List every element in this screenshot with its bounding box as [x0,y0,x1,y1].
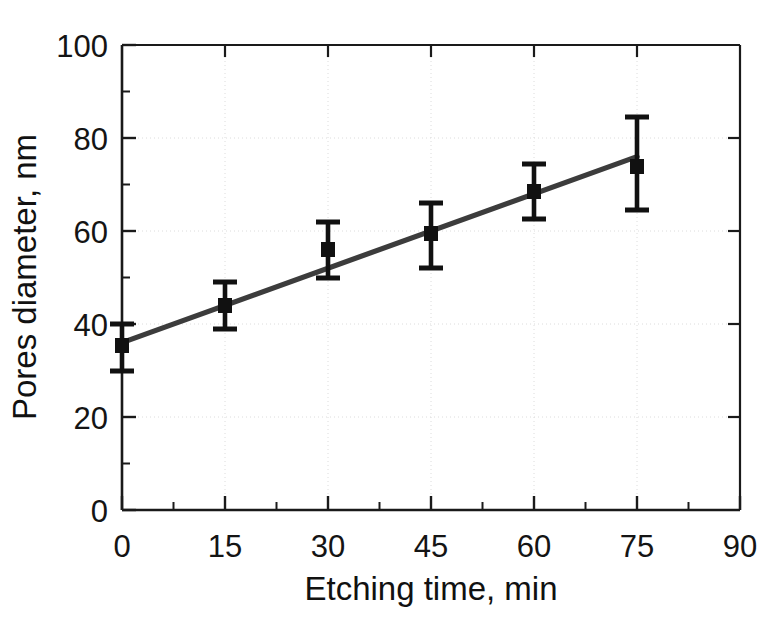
y-tick-label-80: 80 [74,122,108,157]
y-tick-label-100: 100 [56,29,108,64]
y-tick-label-60: 60 [74,215,108,250]
x-tick-label-0: 0 [113,529,130,564]
y-tick-label-20: 20 [74,401,108,436]
y-axis-title: Pores diameter, nm [6,134,43,420]
x-tick-label-15: 15 [208,529,242,564]
pores-diameter-scatter-chart: 100 80 60 40 20 0 0 15 30 45 60 75 90 Et… [0,0,782,618]
data-point-marker [321,242,335,257]
data-point-marker [115,338,129,353]
x-tick-label-45: 45 [414,529,448,564]
x-axis-title: Etching time, min [304,570,557,607]
chart-background [0,0,782,618]
data-point-marker [424,226,438,241]
y-tick-label-40: 40 [74,308,108,343]
x-tick-label-75: 75 [620,529,654,564]
x-tick-label-90: 90 [723,529,757,564]
y-tick-label-0: 0 [91,494,108,529]
x-tick-label-60: 60 [517,529,551,564]
x-tick-label-30: 30 [311,529,345,564]
figure-root: 100 80 60 40 20 0 0 15 30 45 60 75 90 Et… [0,0,782,618]
data-point-marker [630,159,644,174]
data-point-marker [218,298,232,313]
data-point-marker [527,184,541,199]
